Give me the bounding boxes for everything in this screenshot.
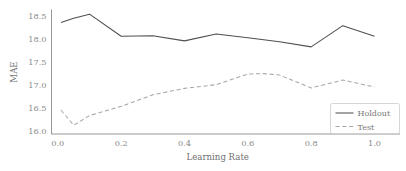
y-tick-label: 18.0: [28, 34, 46, 44]
y-tick-label: 17.0: [28, 80, 46, 90]
line-chart-canvas: 16.016.517.017.518.018.5 0.00.20.40.60.8…: [0, 0, 406, 171]
y-axis-tick-labels: 16.016.517.017.518.018.5: [28, 11, 46, 136]
y-tick-label: 18.5: [28, 11, 46, 21]
chart-figure: 16.016.517.017.518.018.5 0.00.20.40.60.8…: [0, 0, 406, 171]
legend-label: Holdout: [358, 109, 391, 118]
y-tick-label: 16.0: [28, 126, 46, 136]
x-axis-tick-labels: 0.00.20.40.60.81.0: [51, 138, 381, 148]
x-tick-label: 0.4: [178, 138, 191, 148]
x-tick-label: 0.8: [305, 138, 318, 148]
x-tick-label: 0.2: [115, 138, 128, 148]
y-axis-title: MAE: [9, 61, 19, 82]
x-axis-title: Learning Rate: [187, 152, 249, 162]
x-tick-label: 0.0: [51, 138, 64, 148]
series-line-test: [61, 74, 375, 126]
x-tick-label: 1.0: [368, 138, 381, 148]
series-line-holdout: [61, 14, 375, 47]
legend-label: Test: [358, 123, 376, 132]
chart-legend[interactable]: HoldoutTest: [331, 104, 400, 134]
x-tick-label: 0.6: [241, 138, 254, 148]
y-tick-label: 17.5: [28, 57, 46, 67]
y-tick-label: 16.5: [28, 103, 46, 113]
